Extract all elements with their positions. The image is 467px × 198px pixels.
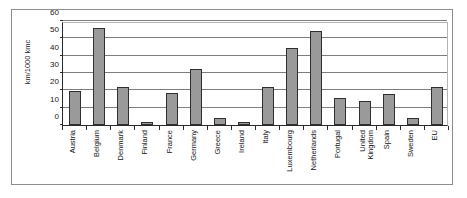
bar-slot — [377, 23, 401, 125]
bar-slot — [135, 23, 159, 125]
x-axis-tick-label: Luxembourg — [286, 130, 298, 182]
x-axis-tick-label: Ireland — [238, 130, 250, 182]
y-axis-tick-mark — [60, 20, 63, 21]
y-axis-tick-label: 0 — [41, 113, 59, 121]
bar-series — [63, 23, 447, 125]
bar-slot — [160, 23, 184, 125]
bar[interactable] — [166, 93, 178, 125]
y-axis-tick-label: 10 — [41, 96, 59, 104]
bar[interactable] — [262, 87, 274, 125]
bar[interactable] — [190, 69, 202, 125]
x-axis-tick-mark — [448, 126, 449, 130]
bar-slot — [208, 23, 232, 125]
bar-slot — [111, 23, 135, 125]
plot-area: 0102030405060 — [62, 22, 448, 126]
bar[interactable] — [69, 91, 81, 125]
x-axis-tick-label: Greece — [214, 130, 226, 182]
bar[interactable] — [214, 118, 226, 125]
x-axis-tick-label: Austria — [69, 130, 81, 182]
bar-slot — [401, 23, 425, 125]
bar-slot — [232, 23, 256, 125]
x-axis-tick-label: Germany — [190, 130, 202, 182]
x-axis-tick-label: Spain — [383, 130, 395, 182]
y-axis-tick-label: 40 — [41, 44, 59, 52]
bar-slot — [353, 23, 377, 125]
bar-slot — [304, 23, 328, 125]
x-axis-tick-label: Denmark — [117, 130, 129, 182]
bar-slot — [328, 23, 352, 125]
chart-figure: km/1000 kmc 0102030405060 AustriaBelgium… — [0, 0, 467, 198]
bar[interactable] — [431, 87, 443, 125]
bar-slot — [87, 23, 111, 125]
y-axis-tick-label: 20 — [41, 78, 59, 86]
y-axis-tick-label: 60 — [41, 9, 59, 17]
x-axis-tick-label: Netherlands — [310, 130, 322, 182]
gridline — [63, 20, 447, 21]
x-axis-labels: AustriaBelgiumDenmarkFinlandFranceGerman… — [62, 130, 448, 182]
x-axis-tick-label: Belgium — [93, 130, 105, 182]
bar-slot — [63, 23, 87, 125]
x-axis-tick-label: EU — [431, 130, 443, 182]
bar-slot — [184, 23, 208, 125]
x-axis-tick-label: Italy — [262, 130, 274, 182]
bar-slot — [256, 23, 280, 125]
bar[interactable] — [310, 31, 322, 125]
y-axis-tick-label: 50 — [41, 26, 59, 34]
x-axis-tick-label: Sweden — [407, 130, 419, 182]
bar[interactable] — [238, 122, 250, 125]
x-axis-tick-label: United Kingdom — [359, 130, 375, 182]
bar[interactable] — [334, 98, 346, 125]
bar[interactable] — [141, 122, 153, 125]
bar[interactable] — [117, 87, 129, 125]
bar[interactable] — [286, 48, 298, 125]
bar[interactable] — [359, 101, 371, 125]
x-axis-tick-label: France — [166, 130, 178, 182]
x-axis-tick-label: Finland — [141, 130, 153, 182]
y-axis-tick-label: 30 — [41, 61, 59, 69]
x-axis-tick-label: Portugal — [334, 130, 346, 182]
y-axis-title: km/1000 kmc — [22, 12, 34, 112]
bar[interactable] — [93, 28, 105, 125]
bar[interactable] — [407, 118, 419, 125]
bar-slot — [280, 23, 304, 125]
bar-slot — [425, 23, 449, 125]
bar[interactable] — [383, 94, 395, 125]
